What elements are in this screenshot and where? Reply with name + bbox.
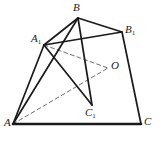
vertex-label-b1-text: B [125, 23, 132, 35]
vertex-label-o-text: O [111, 59, 119, 71]
edge-A-B [13, 18, 78, 124]
edge-B-B1 [78, 18, 122, 32]
vertex-label-a-text: A [4, 116, 11, 128]
vertex-label-a1-text: A [31, 32, 38, 44]
vertex-label-b: B [73, 2, 80, 13]
vertex-label-a1-subscript: 1 [38, 38, 42, 46]
geometry-figure: ABCA1B1C1O [0, 0, 160, 149]
vertex-label-b1-subscript: 1 [132, 29, 136, 37]
figure-canvas [0, 0, 160, 149]
vertex-label-b-text: B [73, 1, 80, 13]
edge-A1-B1 [44, 32, 122, 45]
edge-A1-C1 [44, 45, 92, 105]
vertex-label-c: C [144, 116, 151, 127]
vertex-label-a: A [4, 117, 11, 128]
vertex-label-c1: C1 [85, 107, 96, 118]
vertex-label-o: O [111, 60, 119, 71]
vertex-label-a1: A1 [31, 33, 41, 44]
vertex-label-c1-subscript: 1 [92, 112, 96, 120]
vertex-label-c-text: C [144, 115, 151, 127]
edge-A-A1 [13, 45, 44, 124]
vertex-label-b1: B1 [125, 24, 135, 35]
edge-B1-C [122, 32, 141, 124]
